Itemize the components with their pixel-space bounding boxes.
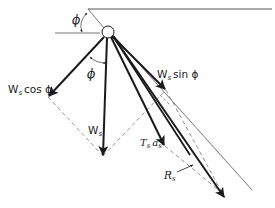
label-ts-as: Tsas bbox=[140, 137, 162, 150]
label-ws: Ws bbox=[88, 124, 102, 138]
w-cos-rest: cos ϕ bbox=[24, 83, 52, 95]
rs-sub: s bbox=[172, 175, 176, 183]
force-diagram: ϕ ϕ Wscos ϕ Wssin ϕ Ws Tsas Rs bbox=[0, 0, 275, 208]
w-sin-rest: sin ϕ bbox=[173, 68, 198, 80]
ws-main: W bbox=[88, 124, 99, 136]
w-sin-main: W bbox=[157, 68, 168, 80]
rs-main: R bbox=[163, 169, 172, 181]
label-ws-cos-phi: Wscos ϕ bbox=[8, 83, 52, 97]
ts-a-sub: s bbox=[158, 142, 162, 150]
label-rs: Rs bbox=[163, 169, 176, 183]
phi-label-mid: ϕ bbox=[87, 67, 95, 81]
vector-ws-cos-phi bbox=[49, 37, 104, 96]
label-ws-sin-phi: Wssin ϕ bbox=[157, 68, 198, 82]
ws-sub: s bbox=[98, 130, 102, 138]
vector-ts-as bbox=[111, 37, 164, 145]
ts-t-sub: s bbox=[147, 142, 151, 150]
w-cos-sub: s bbox=[18, 89, 22, 97]
vector-ws-sin-phi bbox=[112, 36, 165, 89]
phi-angle-arc-top bbox=[81, 13, 87, 32]
vector-ws bbox=[103, 38, 107, 155]
phi-angle-arc-mid bbox=[90, 57, 106, 63]
w-cos-main: W bbox=[8, 83, 19, 95]
rs-leader-line bbox=[177, 165, 193, 172]
w-sin-sub: s bbox=[167, 74, 171, 82]
phi-label-top: ϕ bbox=[72, 13, 80, 27]
incline-upper-line bbox=[88, 9, 104, 28]
